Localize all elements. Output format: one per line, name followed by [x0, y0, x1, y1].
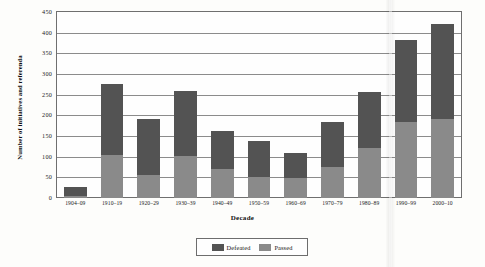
- y-tick-label-450: 450: [26, 8, 52, 15]
- bar-segment-defeated[interactable]: [64, 187, 87, 196]
- bar-segment-defeated[interactable]: [101, 84, 124, 154]
- x-tick-label: 1990–99: [388, 200, 425, 206]
- y-tick-label-150: 150: [26, 132, 52, 139]
- bar-segment-passed[interactable]: [137, 175, 160, 198]
- bar-group[interactable]: [431, 24, 454, 198]
- chart-legend: DefeatedPassed: [196, 238, 308, 256]
- y-tick-label-50: 50: [26, 173, 52, 180]
- x-tick-label: 2000–10: [424, 200, 461, 206]
- x-tick-label: 1980–89: [351, 200, 388, 206]
- bar-segment-passed[interactable]: [174, 156, 197, 198]
- x-axis-tick-labels: 1904–091910–191920–291930–391940–491950–…: [57, 200, 461, 212]
- x-tick-label: 1960–69: [277, 200, 314, 206]
- y-tick-label-300: 300: [26, 70, 52, 77]
- legend-label: Passed: [274, 244, 292, 251]
- legend-label: Defeated: [227, 244, 251, 251]
- bar-group[interactable]: [101, 84, 124, 198]
- bar-group[interactable]: [358, 92, 381, 198]
- bar-segment-passed[interactable]: [395, 122, 418, 198]
- bar-group[interactable]: [64, 187, 87, 198]
- bar-segment-defeated[interactable]: [321, 122, 344, 167]
- y-axis-tick-labels: 450400350300250200150100500: [22, 11, 52, 198]
- x-tick-label: 1930–39: [167, 200, 204, 206]
- bar-group[interactable]: [321, 122, 344, 198]
- bar-segment-defeated[interactable]: [137, 119, 160, 176]
- x-tick-label: 1940–49: [204, 200, 241, 206]
- y-tick-label-100: 100: [26, 152, 52, 159]
- x-axis-title: Decade: [0, 214, 485, 222]
- bar-group[interactable]: [137, 119, 160, 198]
- y-tick-label-200: 200: [26, 111, 52, 118]
- x-tick-label: 1920–29: [130, 200, 167, 206]
- legend-item[interactable]: Defeated: [212, 244, 251, 251]
- bar-group[interactable]: [395, 40, 418, 198]
- x-tick-label: 1904–09: [57, 200, 94, 206]
- bar-group[interactable]: [211, 131, 234, 198]
- bar-segment-passed[interactable]: [284, 178, 307, 198]
- x-tick-label: 1910–19: [94, 200, 131, 206]
- x-tick-label: 1970–79: [314, 200, 351, 206]
- legend-item[interactable]: Passed: [259, 244, 292, 251]
- y-tick-label-0: 0: [26, 194, 52, 201]
- bar-segment-defeated[interactable]: [395, 40, 418, 122]
- bar-group[interactable]: [284, 153, 307, 198]
- bar-segment-defeated[interactable]: [284, 153, 307, 178]
- bar-segment-passed[interactable]: [358, 148, 381, 198]
- bar-group[interactable]: [248, 141, 271, 198]
- bar-chart-figure: Number of initiatives and referenda 4504…: [0, 0, 485, 267]
- bar-segment-passed[interactable]: [64, 196, 87, 198]
- y-tick-label-250: 250: [26, 90, 52, 97]
- bar-segment-defeated[interactable]: [431, 24, 454, 118]
- bar-series-container: [57, 12, 461, 198]
- bar-segment-defeated[interactable]: [211, 131, 234, 169]
- bar-segment-defeated[interactable]: [174, 91, 197, 156]
- bar-segment-passed[interactable]: [211, 169, 234, 198]
- legend-swatch-defeated: [212, 244, 224, 251]
- bar-group[interactable]: [174, 91, 197, 198]
- bar-segment-passed[interactable]: [248, 177, 271, 198]
- y-tick-label-350: 350: [26, 49, 52, 56]
- bar-segment-passed[interactable]: [431, 119, 454, 198]
- bar-segment-defeated[interactable]: [358, 92, 381, 149]
- legend-swatch-passed: [259, 244, 271, 251]
- bar-segment-defeated[interactable]: [248, 141, 271, 177]
- bar-segment-passed[interactable]: [321, 167, 344, 198]
- x-tick-label: 1950–59: [241, 200, 278, 206]
- bar-segment-passed[interactable]: [101, 155, 124, 198]
- y-tick-label-400: 400: [26, 28, 52, 35]
